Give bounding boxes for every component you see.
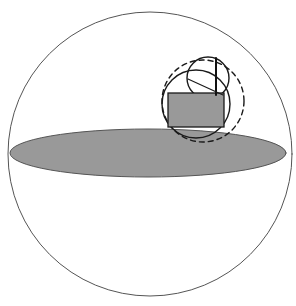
shape-layer <box>8 12 292 296</box>
geometry-diagram-svg <box>0 0 296 306</box>
inscribed-rectangle <box>168 93 224 127</box>
figure-container <box>0 0 296 306</box>
equatorial-disk-ellipse <box>10 129 286 177</box>
